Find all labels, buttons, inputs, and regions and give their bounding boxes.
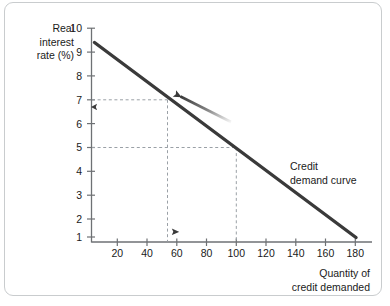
movement-along-curve-arrow xyxy=(181,97,232,123)
y-tick-label-9: 9 xyxy=(76,46,82,58)
y-tick-label-4: 4 xyxy=(76,165,82,177)
y-tick-label-1: 1 xyxy=(76,231,82,243)
y-axis-title-line-3: rate (%) xyxy=(37,49,74,61)
credit-demand-curve xyxy=(95,43,357,238)
credit-demand-curve-label: Credit demand curve xyxy=(290,160,357,186)
y-tick-label-7: 7 xyxy=(76,94,82,106)
x-axis-title-line-2: credit demanded xyxy=(292,281,370,293)
y-axis-title: Real interest rate (%) xyxy=(37,22,74,61)
annotation-arrows xyxy=(97,97,236,232)
y-tick-label-5: 5 xyxy=(76,141,82,153)
x-axis-title: Quantity of credit demanded xyxy=(292,267,370,293)
x-tick-label-160: 160 xyxy=(317,247,335,259)
x-tick-label-40: 40 xyxy=(141,247,153,259)
x-tick-label-180: 180 xyxy=(347,247,365,259)
x-tick-label-60: 60 xyxy=(171,247,183,259)
y-axis-title-line-2: interest xyxy=(40,36,75,48)
y-tick-label-3: 3 xyxy=(76,189,82,201)
curve-label-line-2: demand curve xyxy=(290,174,357,186)
x-axis-title-line-1: Quantity of xyxy=(319,267,370,279)
y-tick-label-8: 8 xyxy=(76,70,82,82)
x-tick-label-20: 20 xyxy=(111,247,123,259)
y-tick-label-6: 6 xyxy=(76,118,82,130)
dashed-guide-lines xyxy=(92,100,236,242)
x-tick-label-100: 100 xyxy=(228,247,246,259)
demand-curve-line xyxy=(95,43,357,238)
x-tick-label-80: 80 xyxy=(201,247,213,259)
x-tick-label-120: 120 xyxy=(257,247,275,259)
y-axis-title-line-1: Real xyxy=(52,22,74,34)
chart-canvas: 10 9 8 7 6 5 4 3 2 1 20 40 60 80 xyxy=(0,0,390,306)
x-axis-tick-labels: 20 40 60 80 100 120 140 160 180 xyxy=(111,247,364,259)
curve-label-line-1: Credit xyxy=(290,160,318,172)
y-tick-label-2: 2 xyxy=(76,213,82,225)
x-tick-label-140: 140 xyxy=(287,247,305,259)
credit-demand-chart: 10 9 8 7 6 5 4 3 2 1 20 40 60 80 xyxy=(0,0,390,306)
axes-group xyxy=(92,28,373,243)
